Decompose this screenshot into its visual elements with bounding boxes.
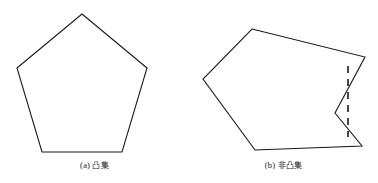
nonconvex-polygon-shape — [203, 29, 365, 150]
convex-set-diagram — [0, 0, 189, 183]
panel-nonconvex-set: (b) 非凸集 — [189, 0, 378, 183]
figure-root: (a) 凸集 (b) 非凸集 — [0, 0, 378, 183]
caption-text-a: 凸集 — [92, 161, 108, 170]
caption-convex-set: (a) 凸集 — [0, 159, 189, 172]
caption-nonconvex-set: (b) 非凸集 — [189, 159, 378, 172]
panel-convex-set: (a) 凸集 — [0, 0, 189, 183]
nonconvex-set-diagram — [189, 0, 378, 183]
caption-label-a: (a) — [80, 160, 90, 170]
caption-label-b: (b) — [265, 160, 276, 170]
caption-text-b: 非凸集 — [278, 161, 303, 170]
convex-pentagon-shape — [17, 14, 147, 152]
